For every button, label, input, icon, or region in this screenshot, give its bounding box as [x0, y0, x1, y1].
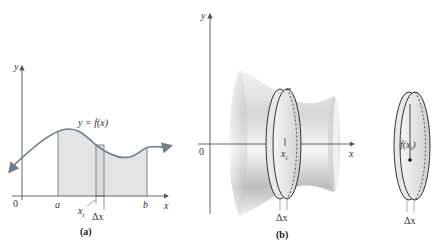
caption-b: (b): [276, 229, 288, 241]
delta-x-label: Δx: [404, 215, 415, 226]
volume-by-disks-diagram: y x 0 y = f(x) a b xi Δx (a) y x 0 xi: [0, 0, 441, 252]
xi-label: xi: [77, 205, 84, 219]
delta-x-label: Δx: [92, 211, 103, 222]
origin-label: 0: [13, 198, 18, 209]
disk: [266, 89, 301, 199]
curve-label: y = f(x): [77, 117, 109, 129]
a-label: a: [55, 199, 60, 210]
panel-disk-detail: f(xi) Δx: [394, 92, 430, 226]
caption-a: (a): [80, 226, 92, 238]
x-axis-label: x: [163, 200, 169, 211]
y-axis-label: y: [200, 10, 206, 21]
panel-b: y x 0 xi Δx (b): [198, 10, 354, 241]
panel-a: y x 0 y = f(x) a b xi Δx (a): [10, 61, 170, 238]
origin-label: 0: [199, 146, 204, 157]
center-point: [408, 158, 412, 162]
radius-label: f(xi): [400, 139, 416, 151]
approximating-rectangle: [96, 145, 104, 196]
b-label: b: [143, 199, 148, 210]
x-axis-label: x: [348, 148, 354, 159]
delta-x-label: Δx: [276, 212, 287, 223]
y-axis-label: y: [13, 61, 19, 72]
